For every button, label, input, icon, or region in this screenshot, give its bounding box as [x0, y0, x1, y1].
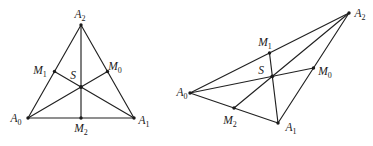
label-A0: A0 [175, 86, 187, 101]
median-A1-M1 [270, 53, 279, 123]
point-A0-dot [188, 91, 191, 94]
label-M2: M2 [222, 114, 237, 129]
label-S: S [70, 69, 76, 81]
median-triangles-figure: A2M1SM0A0M2A1A2M1SM0A0M2A1 [0, 0, 373, 146]
triangle-medians-diagram: A2M1SM0A0M2A1A2M1SM0A0M2A1 [0, 0, 373, 146]
point-A2-dot [347, 11, 350, 14]
point-A0-dot [26, 116, 29, 119]
point-M0-dot [312, 66, 315, 69]
median-A1-M1 [55, 72, 135, 119]
acute-triangle-medians: A2M1SM0A0M2A1 [9, 8, 149, 137]
obtuse-triangle-medians: A2M1SM0A0M2A1 [175, 7, 365, 136]
point-M1-dot [268, 51, 271, 54]
label-M0: M0 [107, 60, 122, 75]
label-A1: A1 [284, 121, 296, 136]
median-A2-M2 [234, 13, 349, 108]
point-A1-dot [276, 121, 279, 124]
point-A1-dot [132, 116, 135, 119]
median-A0-M0 [190, 68, 314, 93]
label-A2: A2 [73, 8, 85, 23]
label-M2: M2 [73, 122, 88, 137]
point-A2-dot [79, 23, 82, 26]
label-A2: A2 [353, 7, 365, 22]
point-M2-dot [232, 106, 235, 109]
label-M1: M1 [32, 64, 47, 79]
point-S-dot [79, 85, 83, 89]
point-M1-dot [53, 70, 56, 73]
label-S: S [258, 64, 264, 76]
label-A0: A0 [9, 112, 21, 127]
point-M2-dot [79, 116, 82, 119]
median-A0-M0 [28, 72, 108, 119]
point-S-dot [270, 74, 274, 78]
label-M0: M0 [317, 65, 332, 80]
label-A1: A1 [137, 114, 149, 129]
label-M1: M1 [257, 36, 272, 51]
